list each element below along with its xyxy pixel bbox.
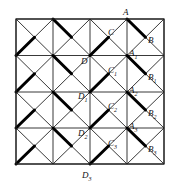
- thick-half-diagonal: [53, 92, 72, 110]
- thick-half-diagonal: [90, 74, 109, 92]
- grid-diagram: ABCDA1B1C1D1A2B2C2D2A3B3C3D3: [0, 0, 175, 186]
- thick-half-diagonal: [53, 19, 72, 37]
- point-label-c: C: [108, 27, 115, 37]
- point-label-b1: B1: [148, 72, 157, 84]
- point-labels: ABCDA1B1C1D1A2B2C2D2A3B3C3D3: [77, 7, 157, 182]
- thick-half-diagonal: [90, 37, 109, 55]
- thick-half-diagonal: [90, 146, 109, 164]
- point-label-d: D: [80, 56, 88, 66]
- thick-half-diagonal: [16, 110, 35, 128]
- point-label-b3: B3: [148, 144, 157, 156]
- thick-half-diagonal: [127, 19, 146, 37]
- point-label-d3: D3: [81, 170, 92, 182]
- point-label-d2: D2: [77, 128, 88, 140]
- point-label-b: B: [148, 35, 154, 45]
- point-label-b2: B2: [148, 108, 157, 120]
- point-label-a2: A2: [128, 85, 138, 97]
- thick-half-diagonal: [16, 146, 35, 164]
- thick-half-diagonal: [53, 128, 72, 146]
- thick-half-diagonal: [16, 74, 35, 92]
- thick-half-diagonal: [16, 37, 35, 55]
- point-label-c3: C3: [108, 138, 117, 150]
- point-label-a3: A3: [128, 121, 138, 133]
- point-label-a1: A1: [128, 48, 138, 60]
- thick-half-diagonal: [90, 110, 109, 128]
- point-label-d1: D1: [77, 91, 88, 103]
- point-label-a: A: [122, 7, 129, 17]
- thick-half-diagonal: [53, 56, 72, 74]
